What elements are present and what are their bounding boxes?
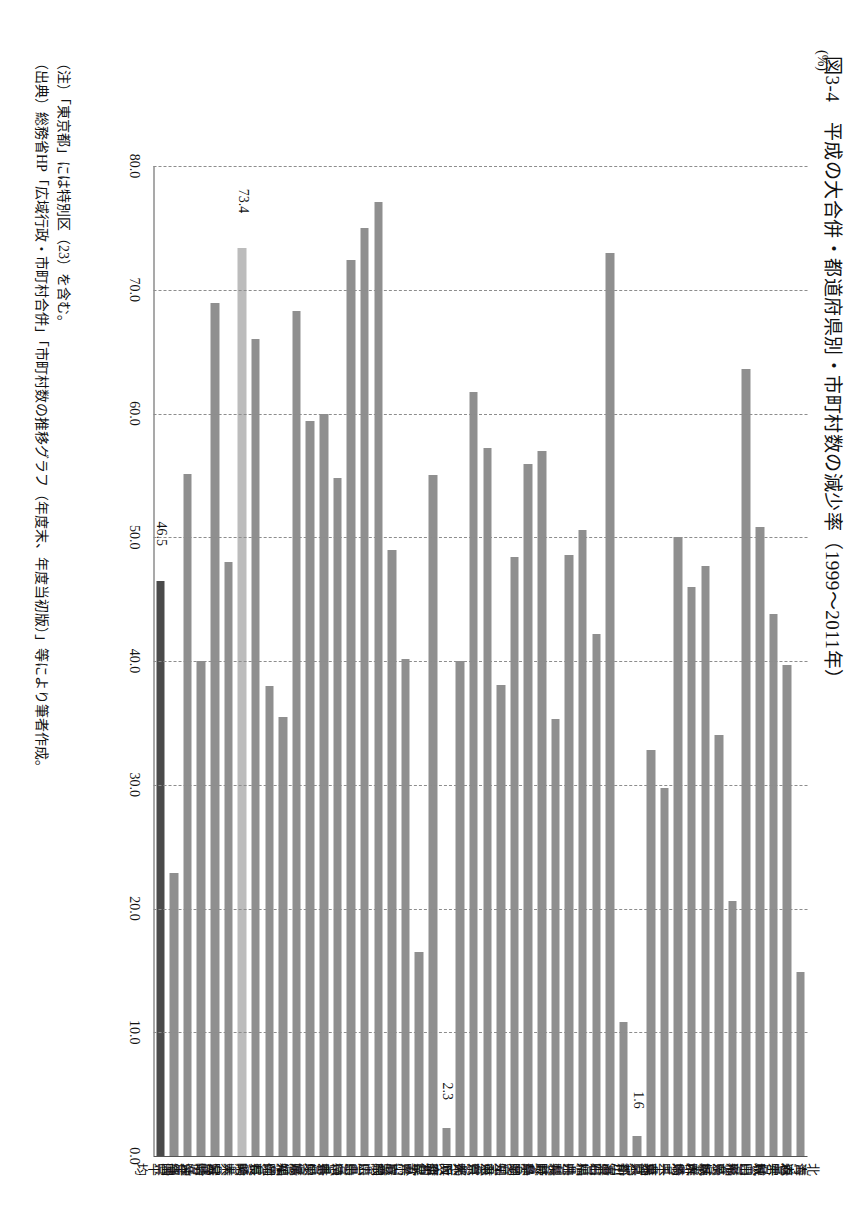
bar xyxy=(251,339,259,1156)
gridline xyxy=(153,909,807,910)
bar xyxy=(578,530,586,1156)
bar xyxy=(741,369,749,1156)
bar xyxy=(387,550,395,1156)
bar xyxy=(619,1022,627,1156)
category-label: 全国平均 xyxy=(134,1162,186,1175)
bar xyxy=(401,659,409,1156)
bar xyxy=(632,1136,640,1156)
gridline xyxy=(153,1032,807,1033)
figure-source: （出典）総務省HP「広域行政・市町村合併」「市町村数の推移グラフ（年度末、年度当… xyxy=(30,56,52,774)
bar xyxy=(523,464,531,1156)
bar xyxy=(660,788,668,1156)
bar xyxy=(714,735,722,1156)
bar xyxy=(537,451,545,1156)
gridline xyxy=(153,166,807,167)
bar xyxy=(673,537,681,1156)
gridline xyxy=(153,1156,807,1157)
axis-unit-label: (%) xyxy=(813,50,829,71)
bar xyxy=(374,202,382,1156)
bar xyxy=(701,566,709,1156)
figure-title: 図3-4 平成の大合併・都道府県別・市町村数の減少率（1999〜2011年） xyxy=(820,56,847,689)
figure-stage: 図3-4 平成の大合併・都道府県別・市町村数の減少率（1999〜2011年） (… xyxy=(0,0,863,1222)
gridline xyxy=(153,537,807,538)
bar xyxy=(183,474,191,1156)
bar xyxy=(510,557,518,1156)
bar xyxy=(305,421,313,1156)
bar xyxy=(687,587,695,1156)
x-tick-label: 40.0 xyxy=(125,649,141,674)
x-tick-label: 10.0 xyxy=(125,1020,141,1045)
bar xyxy=(414,952,422,1156)
bar-value-label: 2.3 xyxy=(438,1083,454,1106)
bar xyxy=(646,750,654,1156)
bar xyxy=(292,311,300,1156)
gridline xyxy=(153,785,807,786)
bar xyxy=(769,614,777,1156)
bar xyxy=(278,717,286,1156)
bar xyxy=(728,901,736,1156)
bar xyxy=(469,392,477,1156)
bar xyxy=(333,478,341,1156)
bar xyxy=(156,581,164,1156)
bar xyxy=(210,303,218,1156)
figure-note: （注）「東京都」には特別区（23）を含む。 xyxy=(51,56,73,774)
bar xyxy=(360,228,368,1156)
x-tick-label: 30.0 xyxy=(125,773,141,798)
bar xyxy=(496,685,504,1156)
bar xyxy=(169,873,177,1156)
x-tick-label: 20.0 xyxy=(125,896,141,921)
bar xyxy=(428,475,436,1156)
x-tick-label: 60.0 xyxy=(125,401,141,426)
bar xyxy=(442,1128,450,1156)
x-tick-label: 80.0 xyxy=(125,154,141,179)
x-tick-label: 70.0 xyxy=(125,278,141,303)
bar xyxy=(782,665,790,1156)
bar xyxy=(346,260,354,1156)
bar xyxy=(605,253,613,1156)
gridline xyxy=(153,290,807,291)
bar xyxy=(265,686,273,1156)
bar xyxy=(592,634,600,1156)
bar xyxy=(564,555,572,1156)
chart-plot-area: (%) 80.070.060.050.040.030.020.010.00.0 … xyxy=(107,96,807,1156)
x-tick-label: 50.0 xyxy=(125,525,141,550)
bar xyxy=(237,248,245,1156)
figure-notes: （注）「東京都」には特別区（23）を含む。 （出典）総務省HP「広域行政・市町村… xyxy=(30,56,73,774)
bar xyxy=(796,972,804,1156)
bar-value-label: 73.4 xyxy=(234,189,250,219)
bar xyxy=(483,448,491,1156)
bar xyxy=(755,527,763,1156)
bar xyxy=(224,562,232,1156)
bar-value-label: 1.6 xyxy=(629,1091,645,1114)
gridline xyxy=(153,414,807,415)
gridline xyxy=(153,661,807,662)
